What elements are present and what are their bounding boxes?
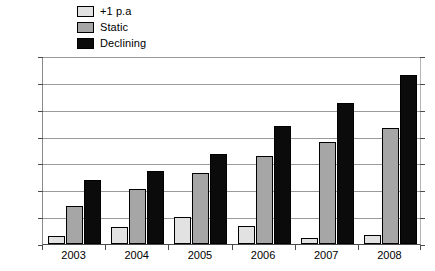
bar-2003-series-0: [48, 236, 65, 244]
y-axis-tick-right: [420, 218, 425, 219]
bar-2008-series-1: [382, 128, 399, 244]
gridline: [43, 164, 420, 165]
y-axis-tick: [38, 164, 43, 165]
legend-swatch-icon: [77, 6, 94, 17]
bar-2006-series-0: [238, 226, 255, 244]
bar-2007-series-1: [319, 142, 336, 244]
gridline: [43, 57, 420, 58]
bar-2003-series-1: [66, 206, 83, 244]
bar-2008-series-0: [364, 235, 381, 244]
legend-label: Declining: [100, 38, 146, 49]
bar-2008-series-2: [400, 75, 417, 244]
y-axis-tick-right: [420, 138, 425, 139]
legend-item-2[interactable]: Declining: [77, 36, 146, 50]
legend-swatch-icon: [77, 22, 94, 33]
x-axis-label-2006: 2006: [233, 250, 293, 261]
x-axis-label-2004: 2004: [107, 250, 167, 261]
bar-2005-series-1: [192, 173, 209, 244]
plot-area: [42, 57, 421, 245]
y-axis-tick-right: [420, 191, 425, 192]
y-axis-tick-right: [420, 84, 425, 85]
y-axis-tick-right: [420, 164, 425, 165]
gridline: [43, 138, 420, 139]
y-axis-tick-right: [420, 111, 425, 112]
x-axis-label-2007: 2007: [296, 250, 356, 261]
y-axis-tick: [38, 84, 43, 85]
gridline: [43, 111, 420, 112]
bar-2007-series-2: [337, 103, 354, 244]
chart-legend: +1 p.aStaticDeclining: [77, 4, 146, 52]
gridline: [43, 84, 420, 85]
legend-item-1[interactable]: Static: [77, 20, 146, 34]
legend-label: +1 p.a: [100, 6, 132, 17]
y-axis-tick: [38, 111, 43, 112]
y-axis-tick-right: [420, 57, 425, 58]
y-axis-tick: [38, 57, 43, 58]
bar-2005-series-0: [174, 217, 191, 244]
x-axis-label-2008: 2008: [359, 250, 419, 261]
x-axis-tick: [420, 245, 421, 250]
bar-chart: +1 p.aStaticDeclining £450£425£400£375£3…: [0, 0, 435, 271]
y-axis-tick: [38, 218, 43, 219]
bar-2006-series-1: [256, 156, 273, 244]
legend-item-0[interactable]: +1 p.a: [77, 4, 146, 18]
y-axis-tick: [38, 191, 43, 192]
bar-2007-series-0: [301, 238, 318, 244]
bar-2004-series-2: [147, 171, 164, 244]
bar-2006-series-2: [274, 126, 291, 244]
x-axis-label-2003: 2003: [44, 250, 104, 261]
x-axis-label-2005: 2005: [170, 250, 230, 261]
bar-2004-series-0: [111, 227, 128, 244]
bar-2003-series-2: [84, 180, 101, 244]
bar-2005-series-2: [210, 154, 227, 244]
y-axis-tick: [38, 138, 43, 139]
bar-2004-series-1: [129, 189, 146, 244]
legend-swatch-icon: [77, 38, 94, 49]
legend-label: Static: [100, 22, 128, 33]
